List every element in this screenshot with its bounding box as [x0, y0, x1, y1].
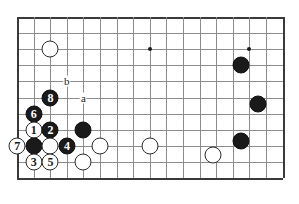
black-stone-center-right[interactable] [75, 121, 92, 138]
star-point-center [148, 47, 152, 51]
black-stone-right-upper[interactable] [233, 57, 250, 74]
grid-line-vertical-7 [133, 17, 134, 178]
black-stone-move-4[interactable]: 4 [58, 137, 75, 154]
white-stone-move-5[interactable]: 5 [42, 153, 59, 170]
stone-move-number: 5 [47, 156, 53, 168]
stone-move-number: 6 [31, 108, 37, 120]
white-stone-move-3[interactable]: 3 [25, 153, 42, 170]
white-stone-plain-d[interactable] [75, 153, 92, 170]
grid-line-vertical-9 [166, 17, 167, 178]
grid-line-vertical-16 [283, 17, 285, 178]
grid-line-vertical-13 [233, 17, 234, 178]
stone-move-number: 3 [31, 156, 37, 168]
black-stone-move-8[interactable]: 8 [42, 89, 59, 106]
stone-move-number: 1 [31, 124, 37, 136]
white-stone-right-lower[interactable] [204, 147, 221, 164]
letter-marker-b: b [63, 76, 71, 87]
white-stone-plain-a[interactable] [42, 137, 59, 154]
grid-line-vertical-6 [117, 17, 118, 178]
grid-line-vertical-15 [266, 17, 267, 178]
stone-move-number: 8 [47, 92, 53, 104]
white-stone-move-1[interactable]: 1 [25, 121, 42, 138]
black-stone-right-mid[interactable] [249, 95, 266, 112]
grid-line-horizontal-10 [17, 178, 283, 180]
stone-move-number: 7 [14, 140, 20, 152]
white-stone-move-7[interactable]: 7 [9, 137, 26, 154]
grid-line-vertical-11 [200, 17, 201, 178]
white-stone-top-left[interactable] [42, 41, 59, 58]
star-point-right [247, 47, 251, 51]
stone-move-number: 2 [47, 124, 53, 136]
black-stone-captured[interactable] [25, 137, 42, 154]
white-stone-plain-b[interactable] [92, 137, 109, 154]
stone-move-number: 4 [64, 140, 70, 152]
white-stone-plain-c[interactable] [141, 137, 158, 154]
letter-marker-a: a [80, 92, 87, 103]
black-stone-right-lower[interactable] [233, 132, 250, 149]
grid-line-vertical-10 [183, 17, 184, 178]
black-stone-move-2[interactable]: 2 [42, 121, 59, 138]
black-stone-move-6[interactable]: 6 [25, 105, 42, 122]
go-board-diagram: 86127435 ba [0, 0, 299, 204]
